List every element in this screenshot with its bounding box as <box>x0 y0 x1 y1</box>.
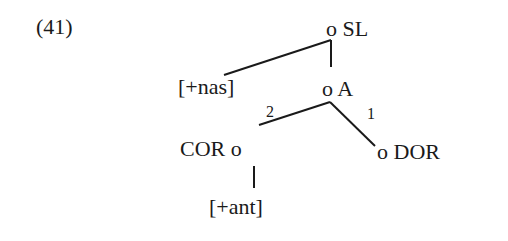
node-dor: o DOR <box>377 140 440 164</box>
node-a-marker: o <box>322 76 333 101</box>
node-cor-label: COR <box>180 136 225 161</box>
node-a-label: A <box>337 76 353 101</box>
node-cor: COR o <box>180 137 242 161</box>
node-a: o A <box>322 77 353 101</box>
node-cor-marker: o <box>231 136 242 161</box>
node-dor-marker: o <box>377 139 388 164</box>
edge-sl-nas <box>224 40 331 75</box>
node-dor-label: DOR <box>394 139 440 164</box>
branch-label-cor: 2 <box>266 104 274 120</box>
node-sl: o SL <box>326 17 368 41</box>
node-sl-marker: o <box>326 16 337 41</box>
branch-label-dor: 1 <box>367 106 375 122</box>
node-sl-label: SL <box>343 16 369 41</box>
feature-ant: [+ant] <box>209 195 263 219</box>
feature-nas: [+nas] <box>178 75 234 99</box>
